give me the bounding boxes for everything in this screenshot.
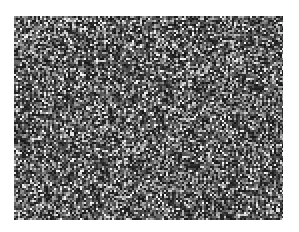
noise-texture-image: [14, 16, 283, 220]
noise-canvas: [14, 16, 283, 220]
